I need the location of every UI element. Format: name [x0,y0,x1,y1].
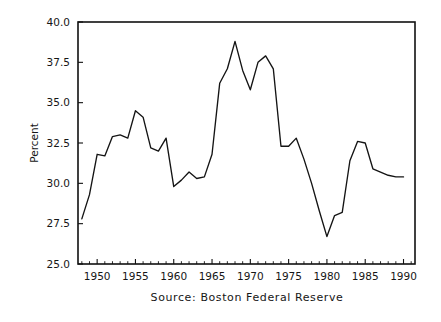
y-tick-label: 40.0 [47,16,70,28]
y-tick-label: 30.0 [47,177,70,189]
x-tick-label: 1965 [199,270,226,282]
x-tick-label: 1985 [352,270,379,282]
x-tick-label: 1975 [275,270,302,282]
y-tick-label: 32.5 [47,137,70,149]
line-chart: 25.027.530.032.535.037.540.0 19501955196… [0,0,441,322]
y-tick-label: 27.5 [47,217,70,229]
x-tick-label: 1955 [122,270,149,282]
x-tick-label: 1990 [390,270,417,282]
x-tick-label: 1980 [314,270,341,282]
x-tick-label: 1950 [84,270,111,282]
y-tick-label: 35.0 [47,96,70,108]
y-axis-title: Percent [28,123,40,163]
x-tick-label: 1970 [237,270,264,282]
y-tick-label: 37.5 [47,56,70,68]
chart-figure: 25.027.530.032.535.037.540.0 19501955196… [0,0,441,322]
y-tick-label: 25.0 [47,258,70,270]
x-tick-label: 1960 [160,270,187,282]
x-axis-tick-labels: 195019551960196519701975198019851990 [84,270,417,282]
source-caption: Source: Boston Federal Reserve [151,291,344,304]
